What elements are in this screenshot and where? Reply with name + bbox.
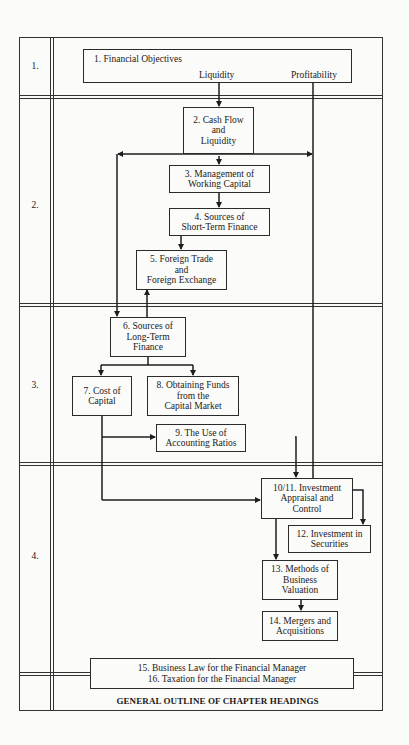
diagram-caption: GENERAL OUTLINE OF CHAPTER HEADINGS: [53, 696, 382, 706]
box-cash-flow-liquidity: 2. Cash Flow and Liquidity: [183, 107, 254, 154]
box-cost-of-capital: 7. Cost of Capital: [72, 376, 132, 416]
box-foreign-trade: 5. Foreign Trade and Foreign Exchange: [136, 250, 227, 290]
box-5-line: 5. Foreign Trade: [150, 254, 213, 265]
box-13-line: 13. Methods of: [271, 564, 329, 575]
box-12-line: Securities: [311, 539, 348, 550]
box-2-line: and: [212, 125, 226, 136]
box-10-line: Control: [292, 504, 321, 515]
box-long-term-finance: 6. Sources of Long-Term Finance: [110, 317, 186, 357]
box-8-line: 8. Obtaining Funds: [156, 380, 229, 391]
box-7-line: 7. Cost of: [83, 386, 120, 397]
box-16-line: 16. Taxation for the Financial Manager: [148, 674, 296, 685]
box-3-line: Working Capital: [188, 179, 251, 190]
box-investment-appraisal: 10/11. Investment Appraisal and Control: [261, 478, 353, 519]
box-13-line: Business: [283, 575, 317, 586]
box-13-line: Valuation: [282, 585, 318, 596]
box-4-line: Short-Term Finance: [181, 222, 257, 233]
box-8-line: from the: [177, 391, 209, 402]
box-mergers-acquisitions: 14. Mergers and Acquisitions: [262, 611, 338, 641]
box-1-title: 1. Financial Objectives: [94, 54, 182, 64]
box-7-line: Capital: [88, 396, 115, 407]
profitability-label: Profitability: [291, 70, 337, 80]
box-9-line: Accounting Ratios: [166, 438, 237, 449]
box-14-line: Acquisitions: [276, 626, 324, 637]
box-9-line: 9. The Use of: [175, 428, 227, 439]
box-10-line: Appraisal and: [280, 493, 333, 504]
box-law-and-taxation: 15. Business Law for the Financial Manag…: [90, 658, 354, 689]
box-6-line: Long-Term: [126, 332, 169, 343]
row-label-1: 1.: [19, 61, 51, 71]
box-investment-securities: 12. Investment in Securities: [288, 525, 371, 553]
box-obtaining-funds: 8. Obtaining Funds from the Capital Mark…: [147, 376, 239, 416]
row-label-4: 4.: [19, 551, 51, 561]
box-12-line: 12. Investment in: [296, 529, 362, 540]
box-14-line: 14. Mergers and: [269, 616, 331, 627]
row-label-3: 3.: [19, 380, 51, 390]
box-6-line: 6. Sources of: [123, 321, 173, 332]
box-financial-objectives: 1. Financial Objectives Liquidity Profit…: [83, 49, 352, 83]
box-6-line: Finance: [133, 342, 163, 353]
box-working-capital: 3. Management of Working Capital: [169, 165, 270, 193]
box-5-line: and: [175, 265, 189, 276]
box-2-line: Liquidity: [201, 136, 236, 147]
liquidity-label: Liquidity: [199, 70, 234, 80]
box-8-line: Capital Market: [164, 401, 221, 412]
box-accounting-ratios: 9. The Use of Accounting Ratios: [156, 424, 246, 452]
box-short-term-finance: 4. Sources of Short-Term Finance: [169, 208, 270, 236]
box-2-line: 2. Cash Flow: [193, 115, 243, 126]
box-10-line: 10/11. Investment: [273, 483, 341, 494]
row-label-2: 2.: [19, 200, 51, 210]
box-5-line: Foreign Exchange: [147, 275, 216, 286]
box-3-line: 3. Management of: [185, 169, 254, 180]
box-business-valuation: 13. Methods of Business Valuation: [262, 560, 338, 600]
box-4-line: 4. Sources of: [195, 212, 245, 223]
box-15-line: 15. Business Law for the Financial Manag…: [138, 663, 307, 674]
